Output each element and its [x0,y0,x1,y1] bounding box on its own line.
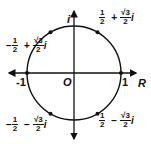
origin-label: O [63,77,72,88]
point-q3 [49,112,53,116]
imag-axis-label: i [67,14,70,25]
neg-one-label: -1 [16,77,26,88]
label-q2: −12 +√32i [6,37,47,54]
label-q1: 12 +√32i [99,9,134,26]
point-one [119,71,123,75]
label-q4: 12 −√32i [99,112,134,129]
point-q1 [96,30,100,34]
point-neg-one [25,71,29,75]
label-q3: −12 −√32i [6,116,47,133]
point-q2 [49,30,53,34]
real-axis-label: R [138,78,146,89]
pos-one-label: 1 [122,77,128,88]
